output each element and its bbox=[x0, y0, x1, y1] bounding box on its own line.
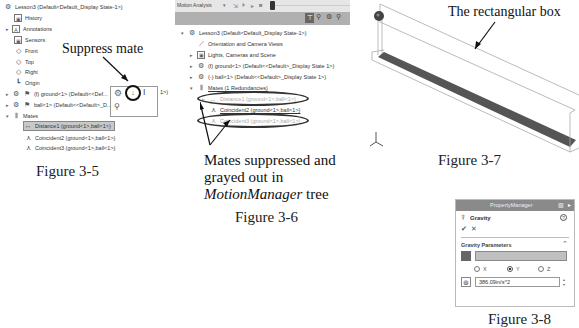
origin-icon: ┗ bbox=[14, 79, 22, 87]
annotation-line: MotionManager tree bbox=[204, 186, 336, 203]
rectangular-box-annotation: The rectangular box bbox=[448, 4, 561, 20]
part-icon: ⚙ bbox=[197, 62, 205, 70]
expand-icon[interactable]: ▸ bbox=[190, 52, 197, 58]
tree-item-coincident3[interactable]: ⋏ Coincident3 (ground<1>,ball<1>) bbox=[24, 143, 115, 153]
pin-icon[interactable]: ▥ bbox=[558, 201, 564, 208]
flag-icon: ⚑ bbox=[23, 101, 31, 109]
tree-item-label: Lesson3 (Default<Default_Display State-1… bbox=[15, 4, 123, 10]
figure-caption: Figure 3-7 bbox=[438, 152, 501, 169]
tree-item-label: Origin bbox=[25, 80, 40, 86]
expand-icon[interactable]: ▸ bbox=[190, 63, 197, 69]
menu-icon[interactable]: ▸ bbox=[568, 201, 571, 208]
cancel-button[interactable]: ✕ bbox=[471, 225, 477, 233]
tree-item-label: Mates bbox=[23, 113, 38, 119]
play-from-start-icon[interactable]: ⏵ bbox=[242, 2, 245, 9]
coincident-mate-icon: ⋏ bbox=[24, 144, 32, 152]
tree-item-label: Right bbox=[25, 69, 38, 75]
tree-item-label: Sensors bbox=[25, 37, 45, 43]
radio-x[interactable]: X bbox=[474, 266, 487, 272]
tree-item-label: Orientation and Camera Views bbox=[208, 41, 283, 47]
tree-item-lesson3[interactable]: ▾ ⚙ Lesson3 (Default<Default_Display Sta… bbox=[181, 28, 307, 38]
autokey-icon[interactable]: ⚲ bbox=[316, 13, 321, 21]
tree-item-label: History bbox=[25, 15, 42, 21]
gravity-value-icon: ⊛ bbox=[461, 277, 471, 287]
tree-item-distance1[interactable]: ↔ Distance1 (ground<1>,ball<1>) bbox=[23, 121, 115, 131]
add-key-icon[interactable]: ⚙ bbox=[326, 13, 332, 21]
ok-button[interactable]: ✔ bbox=[461, 225, 467, 233]
figure-3-8: PropertyManager ▥ ▸ ⍒ Gravity ? ✔ ✕ Grav… bbox=[455, 199, 575, 307]
annotation-arrow bbox=[100, 55, 135, 85]
tree-item-coincident2[interactable]: ⋏ Coincident2 (ground<1>,ball<1>) bbox=[24, 133, 115, 143]
tree-item-sensors[interactable]: ▣ Sensors bbox=[14, 35, 45, 45]
stop-icon[interactable]: ■ bbox=[259, 2, 263, 8]
tree-item-mates[interactable]: ▾ ⫴ Mates bbox=[6, 111, 38, 121]
help-button[interactable]: ? bbox=[560, 214, 567, 221]
tree-item-ground[interactable]: ▸ ⚙ (f) ground<1> (Default<<Default>_Dis… bbox=[190, 61, 334, 71]
part-icon: ⚙ bbox=[12, 90, 20, 98]
tree-item-lights[interactable]: ▸ ▣ Lights, Cameras and Scene bbox=[190, 50, 276, 60]
tree-header-bar bbox=[175, 12, 350, 25]
tree-item-label: Coincident2 (ground<1>,ball<1>) bbox=[35, 135, 115, 141]
hide-icon[interactable]: Ⅰ bbox=[143, 88, 145, 97]
value-spinner[interactable]: ▴▾ bbox=[563, 277, 565, 287]
gravity-icon: ⍒ bbox=[461, 214, 465, 222]
collapse-icon[interactable]: ▾ bbox=[181, 30, 188, 36]
settings-icon[interactable]: ⚲ bbox=[336, 13, 341, 21]
direction-reference-icon[interactable] bbox=[461, 251, 471, 261]
annotations-icon: A bbox=[12, 25, 20, 33]
annotation-arrow bbox=[470, 20, 500, 55]
tree-item-top[interactable]: ◇ Top bbox=[14, 57, 34, 67]
panel-header: PropertyManager ▥ ▸ bbox=[456, 200, 574, 211]
mates-suppressed-annotation: Mates suppressed and grayed out in Motio… bbox=[204, 152, 336, 203]
tree-item-ball[interactable]: ▸ ⚙ (-) ball<1> (Default<<Default>_Displ… bbox=[190, 72, 326, 82]
tree-item-trailing: 1>) bbox=[160, 89, 168, 95]
gravity-value-input[interactable]: 386.09in/s^2 bbox=[475, 277, 560, 287]
study-type-dropdown[interactable]: Motion Analysis bbox=[177, 2, 212, 8]
tree-item-label: Annotations bbox=[23, 26, 52, 32]
zoom-to-selection-icon[interactable]: ⚲ bbox=[114, 102, 120, 111]
mates-icon: ⫴ bbox=[197, 84, 205, 92]
tree-item-right[interactable]: ◇ Right bbox=[14, 67, 38, 77]
mates-icon: ⫴ bbox=[12, 112, 20, 120]
tree-item-label: Coincident3 (ground<1>,ball<1>) bbox=[35, 145, 115, 151]
tree-item-annotations[interactable]: ▸ A Annotations bbox=[6, 24, 52, 34]
dropdown-chevron-icon[interactable]: ▾ bbox=[223, 2, 226, 8]
expand-icon[interactable]: ▸ bbox=[190, 74, 197, 80]
annotation-line: grayed out in bbox=[204, 169, 336, 186]
tree-item-front[interactable]: ◇ Front bbox=[14, 46, 38, 56]
filter-icon[interactable]: ⊤ bbox=[305, 13, 314, 23]
axis-triad-icon bbox=[370, 128, 390, 153]
panel-title: PropertyManager bbox=[490, 202, 533, 208]
assembly-icon: ⚙ bbox=[188, 29, 196, 37]
coincident-mate-icon: ⋏ bbox=[24, 134, 32, 142]
tree-item-ball[interactable]: ▸ ⚙ ⚑ ball<1> (Default<<Default>_D... bbox=[6, 100, 112, 110]
suppress-mate-button[interactable]: ↓ bbox=[125, 85, 141, 101]
direction-reference-field[interactable] bbox=[475, 251, 567, 261]
collapse-section-icon[interactable]: ⌃ bbox=[562, 240, 568, 248]
radio-label: Z bbox=[547, 266, 550, 272]
tree-item-origin[interactable]: ┗ Origin bbox=[14, 78, 40, 88]
part-icon: ⚙ bbox=[12, 101, 20, 109]
radio-y-circle bbox=[507, 266, 513, 272]
tree-item-label: Lesson3 (Default<Default_Display State-1… bbox=[199, 30, 307, 36]
figure-caption: Figure 3-5 bbox=[36, 163, 99, 180]
tree-item-label: (-) ball<1> (Default<<Default>_Display S… bbox=[208, 74, 326, 80]
calculate-icon[interactable]: ⇲ bbox=[233, 2, 238, 9]
radio-z[interactable]: Z bbox=[538, 266, 550, 272]
radio-y[interactable]: Y bbox=[507, 266, 520, 272]
collapse-icon[interactable]: ▾ bbox=[190, 85, 197, 91]
tree-item-orientation[interactable]: ⟋ Orientation and Camera Views bbox=[197, 39, 283, 49]
edit-part-icon[interactable]: ⚙ bbox=[114, 88, 122, 98]
sensors-icon: ▣ bbox=[14, 36, 22, 44]
tree-item-lesson3[interactable]: ⚙ Lesson3 (Default<Default_Display State… bbox=[4, 2, 123, 12]
annotation-line: Mates suppressed and bbox=[204, 152, 336, 169]
radio-label: Y bbox=[516, 266, 520, 272]
play-icon[interactable]: ▸ bbox=[251, 2, 254, 9]
tree-item-ground[interactable]: ▸ ⚙ ⚑ (f) ground<1> (Default<<Def... bbox=[6, 89, 108, 99]
tree-item-label: Front bbox=[25, 48, 38, 54]
tree-item-label: (f) ground<1> (Default<<Default>_Display… bbox=[208, 63, 334, 69]
tree-item-history[interactable]: ▣ History bbox=[14, 13, 42, 23]
section-title: Gravity Parameters bbox=[461, 242, 511, 248]
radio-label: X bbox=[483, 266, 487, 272]
tree-item-label: ball<1> (Default<<Default>_D... bbox=[34, 102, 112, 108]
